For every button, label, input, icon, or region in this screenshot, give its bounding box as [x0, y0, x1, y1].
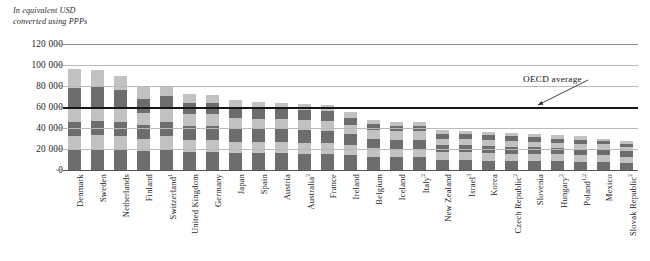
bar-segment: [344, 145, 357, 156]
bar-segment: [275, 109, 288, 118]
x-label-slot: Belgium: [362, 172, 385, 260]
bar-segment: [229, 129, 242, 142]
bar-segment: [344, 155, 357, 170]
x-axis-label-poland: Poland1,2: [581, 174, 592, 206]
x-label-slot: Switzerland1: [155, 172, 178, 260]
bar-australia[interactable]: [298, 104, 311, 170]
x-axis-label-france: France: [328, 174, 338, 198]
bar-segment: [574, 162, 587, 170]
y-axis-tick-mark: [56, 65, 63, 66]
x-axis-label-denmark: Denmark: [75, 174, 85, 207]
bar-slovenia[interactable]: [528, 134, 541, 170]
bar-austria[interactable]: [275, 103, 288, 170]
bar-segment: [91, 107, 104, 121]
bar-segment: [321, 131, 334, 143]
x-axis-label-czech-republic: Czech Republic2: [512, 174, 523, 234]
x-axis-label-united-kingdom: United Kingdom: [190, 174, 200, 234]
x-label-slot: Slovenia: [523, 172, 546, 260]
bar-segment: [275, 142, 288, 154]
x-label-slot: Sweden: [86, 172, 109, 260]
x-label-slot: Australia2: [293, 172, 316, 260]
bar-hungary[interactable]: [551, 135, 564, 170]
x-label-slot: Denmark: [63, 172, 86, 260]
bar-spain[interactable]: [252, 102, 265, 170]
bar-slovak-republic[interactable]: [620, 141, 633, 170]
bar-segment: [114, 76, 127, 91]
bar-segment: [252, 142, 265, 154]
x-label-slot: United Kingdom: [178, 172, 201, 260]
bar-segment: [367, 130, 380, 138]
x-label-slot: Finland: [132, 172, 155, 260]
axis-baseline: [63, 170, 638, 171]
x-label-slot: Mexico: [592, 172, 615, 260]
bar-segment: [160, 150, 173, 170]
bar-new-zealand[interactable]: [436, 130, 449, 170]
bar-segment: [137, 99, 150, 114]
x-label-slot: Austria: [270, 172, 293, 260]
x-label-slot: Italy2: [408, 172, 431, 260]
bar-segment: [321, 154, 334, 170]
bar-ireland[interactable]: [344, 112, 357, 170]
bar-segment: [137, 113, 150, 125]
bar-segment: [137, 125, 150, 139]
x-axis-label-finland: Finland: [144, 174, 154, 201]
gridline: [63, 128, 638, 129]
x-axis-label-mexico: Mexico: [604, 174, 614, 201]
x-axis-label-new-zealand: New Zealand: [443, 174, 453, 222]
x-axis-label-israel: Israel3: [466, 174, 477, 197]
bar-segment: [91, 149, 104, 170]
x-axis-label-sweden: Sweden: [98, 174, 108, 202]
bar-israel[interactable]: [459, 131, 472, 170]
bar-segment: [482, 153, 495, 160]
bar-segment: [252, 129, 265, 142]
bar-segment: [459, 152, 472, 159]
y-axis-tick-mark: [56, 128, 63, 129]
x-axis-label-netherlands: Netherlands: [121, 174, 131, 217]
bar-segment: [298, 110, 311, 119]
bar-segment: [298, 130, 311, 143]
bar-segment: [551, 161, 564, 170]
bar-segment: [413, 140, 426, 149]
x-label-slot: Korea: [477, 172, 500, 260]
bar-mexico[interactable]: [597, 139, 610, 170]
bar-czech-republic[interactable]: [505, 133, 518, 170]
axis-unit-caption: In equivalent USD converted using PPPs: [13, 6, 87, 27]
x-axis-label-ireland: Ireland: [351, 174, 361, 199]
gridline: [63, 44, 638, 45]
x-label-slot: Poland1,2: [569, 172, 592, 260]
bar-united-kingdom[interactable]: [183, 94, 196, 170]
bar-segment: [298, 154, 311, 170]
bar-segment: [183, 114, 196, 126]
bar-segment: [436, 160, 449, 171]
bar-segment: [413, 149, 426, 157]
bar-netherlands[interactable]: [114, 76, 127, 170]
x-axis-label-germany: Germany: [213, 174, 223, 207]
x-axis-label-slovenia: Slovenia: [535, 174, 545, 205]
y-axis-tick-mark: [56, 86, 63, 87]
bar-segment: [459, 160, 472, 171]
plot-area: [63, 44, 638, 170]
bar-korea[interactable]: [482, 132, 495, 170]
bar-segment: [252, 153, 265, 170]
bar-segment: [160, 109, 173, 122]
bar-poland[interactable]: [574, 136, 587, 170]
y-axis-tick-mark: [56, 170, 63, 171]
bar-segment: [321, 121, 334, 132]
bar-segment: [206, 140, 219, 153]
x-label-slot: Israel3: [454, 172, 477, 260]
x-label-slot: Ireland: [339, 172, 362, 260]
bar-segment: [91, 135, 104, 149]
gridline: [63, 149, 638, 150]
bar-segment: [160, 87, 173, 95]
x-label-slot: New Zealand: [431, 172, 454, 260]
x-axis-label-hungary: Hungary2: [558, 174, 569, 208]
bar-segment: [436, 152, 449, 159]
y-axis-tick-mark: [56, 44, 63, 45]
bar-segment: [597, 162, 610, 170]
bar-denmark[interactable]: [68, 69, 81, 170]
x-axis-label-korea: Korea: [489, 174, 499, 196]
bar-segment: [413, 157, 426, 170]
bar-france[interactable]: [321, 105, 334, 170]
y-axis-tick-mark: [56, 107, 63, 108]
bar-japan[interactable]: [229, 100, 242, 170]
